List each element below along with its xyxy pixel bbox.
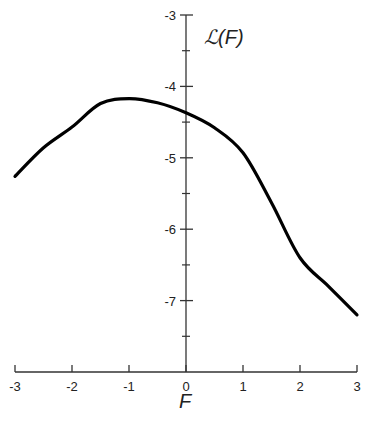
x-tick-label: -2 — [66, 379, 78, 394]
x-tick-label: -3 — [9, 379, 21, 394]
y-tick-label: -4 — [164, 79, 176, 94]
y-tick-label: -7 — [164, 294, 176, 309]
chart-svg: -3-2-10123 -3-4-5-6-7 ℒ(F) F — [0, 0, 369, 421]
y-tick-label: -3 — [164, 8, 176, 23]
x-tick-label: 1 — [239, 379, 246, 394]
x-tick-label: -1 — [123, 379, 135, 394]
x-tick-label: 3 — [353, 379, 360, 394]
likelihood-chart: -3-2-10123 -3-4-5-6-7 ℒ(F) F — [0, 0, 369, 421]
x-tick-label: 2 — [296, 379, 303, 394]
y-tick-label: -6 — [164, 222, 176, 237]
x-axis-title: F — [179, 390, 193, 412]
y-tick-label: -5 — [164, 151, 176, 166]
y-axis: -3-4-5-6-7 — [164, 8, 193, 372]
y-axis-title: ℒ(F) — [204, 26, 244, 48]
